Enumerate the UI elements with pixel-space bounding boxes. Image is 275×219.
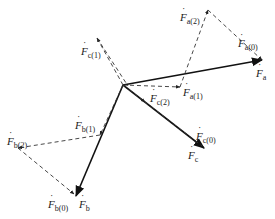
phasor-diagram: ˙Fa(2) ˙Fa(0) ˙Fa ˙Fc(1) ˙Fc(2) ˙Fa(1) ˙… <box>0 0 275 219</box>
label-Fb: ˙Fb <box>79 199 90 213</box>
vector-Fb <box>76 85 123 196</box>
line-Fc1-return <box>97 38 128 86</box>
vector-Fa <box>123 60 262 85</box>
label-Fa0: ˙Fa(0) <box>238 38 258 52</box>
label-Fc: ˙Fc <box>188 150 198 164</box>
vector-Fc1 <box>97 38 123 85</box>
label-Fb1: ˙Fb(1) <box>75 120 95 134</box>
vector-Fb1 <box>100 85 123 135</box>
label-Fa2: ˙Fa(2) <box>180 12 200 26</box>
label-Fc1: ˙Fc(1) <box>81 46 101 60</box>
label-Fa: ˙Fa <box>256 68 266 82</box>
vector-drawing <box>0 0 275 219</box>
label-Fc0: ˙Fc(0) <box>196 131 216 145</box>
label-Fa1: ˙Fa(1) <box>183 87 203 101</box>
label-Fc2: ˙Fc(2) <box>150 93 170 107</box>
label-Fb0: ˙Fb(0) <box>48 199 68 213</box>
vector-Fb2 <box>18 135 100 148</box>
vector-Fa0 <box>208 10 262 60</box>
label-Fb2: ˙Fb(2) <box>7 136 27 150</box>
vector-Fb0 <box>18 148 74 194</box>
